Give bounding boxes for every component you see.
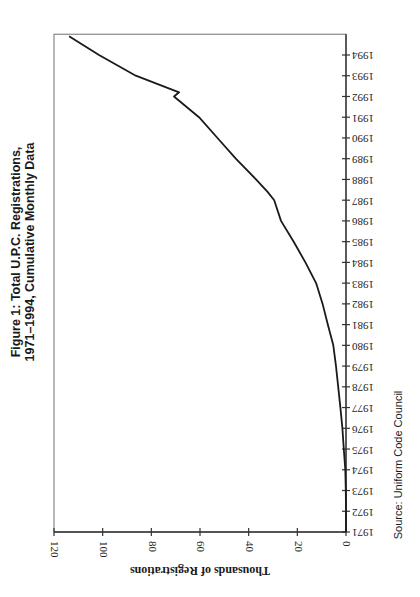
year-tick-label: 1994 — [352, 50, 375, 62]
year-tick-label: 1973 — [352, 486, 375, 498]
value-axis-label: Thousands of Registrations — [130, 564, 270, 578]
year-tick-label: 1981 — [352, 320, 374, 332]
year-tick-label: 1987 — [352, 196, 375, 208]
year-tick-label: 1971 — [352, 527, 374, 539]
value-tick-label: 0 — [341, 541, 353, 547]
year-tick-label: 1991 — [352, 113, 374, 125]
year-tick-label: 1989 — [352, 154, 375, 166]
figure-title-line-2: 1971–1994, Cumulative Monthly Data — [23, 143, 37, 362]
year-tick-label: 1977 — [352, 403, 375, 415]
year-tick-label: 1975 — [352, 445, 375, 457]
year-tick-label: 1980 — [352, 341, 375, 353]
upc-registrations-chart: 020406080100120 197119721973197419751976… — [0, 0, 420, 597]
year-tick-label: 1982 — [352, 299, 374, 311]
year-tick-label: 1983 — [352, 279, 375, 291]
year-tick-label: 1985 — [352, 237, 375, 249]
year-tick-label: 1990 — [352, 133, 375, 145]
figure-title-line-1: Figure 1: Total U.P.C. Registrations, — [9, 143, 23, 362]
year-tick-label: 1972 — [352, 507, 374, 519]
year-tick-label: 1988 — [352, 175, 375, 187]
value-tick-label: 80 — [147, 541, 159, 553]
year-tick-label: 1984 — [352, 258, 375, 270]
year-axis: 1971197219731974197519761977197819791980… — [342, 34, 374, 539]
value-tick-label: 100 — [98, 541, 110, 558]
value-tick-label: 60 — [195, 541, 207, 553]
year-tick-label: 1992 — [352, 92, 374, 104]
figure-title: Figure 1: Total U.P.C. Registrations, 19… — [9, 143, 37, 362]
year-tick-label: 1993 — [352, 71, 375, 83]
year-tick-label: 1986 — [352, 216, 375, 228]
year-tick-label: 1979 — [352, 362, 375, 374]
year-tick-label: 1978 — [352, 382, 375, 394]
value-axis: 020406080100120 — [49, 528, 353, 558]
plot-frame — [54, 34, 346, 532]
year-tick-label: 1976 — [352, 424, 375, 436]
source-note: Source: Uniform Code Council — [392, 391, 404, 540]
year-tick-label: 1974 — [352, 465, 375, 477]
value-tick-label: 20 — [293, 541, 305, 553]
value-tick-label: 40 — [244, 541, 256, 553]
value-tick-label: 120 — [49, 541, 61, 558]
registrations-line — [69, 36, 346, 532]
